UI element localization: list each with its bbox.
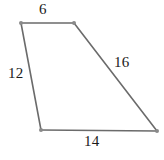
vertex-bottom-right (155, 129, 159, 133)
edge-right (74, 23, 157, 131)
side-label-top: 6 (39, 2, 47, 17)
vertex-top-right (72, 21, 76, 25)
side-label-right: 16 (114, 55, 130, 70)
vertex-bottom-left (39, 128, 43, 132)
edge-left (21, 23, 41, 130)
edge-bottom (41, 130, 157, 131)
side-label-left: 12 (8, 66, 24, 81)
vertex-top-left (19, 21, 23, 25)
quadrilateral-drawing (0, 0, 164, 160)
side-label-bottom: 14 (84, 134, 100, 149)
geometry-figure: 6 16 14 12 (0, 0, 164, 160)
